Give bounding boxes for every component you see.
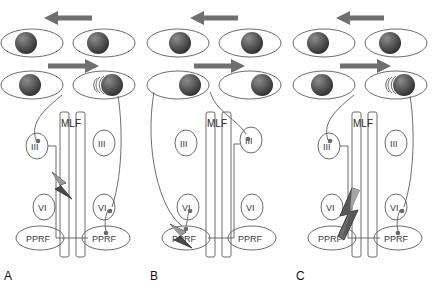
eye-bottom-right-nystagmus xyxy=(365,71,427,99)
eye-bottom-left xyxy=(147,71,209,99)
abducens-nucleus-right: VI xyxy=(385,194,407,220)
oculomotor-label-left: III xyxy=(180,139,188,149)
panel-b-graphic: MLF III III VI VI PPRF xyxy=(146,0,291,285)
mlf-tract-left xyxy=(352,112,361,257)
panel-label-b: B xyxy=(150,269,158,283)
oculomotor-label-right: III xyxy=(390,139,398,149)
abducens-label-left: VI xyxy=(326,203,335,213)
mlf-tract-right xyxy=(76,112,85,257)
panel-a-graphic: MLF III III VI VI PPRF xyxy=(0,0,145,285)
eye-bottom-left xyxy=(1,71,63,99)
panel-label-c: C xyxy=(296,269,305,283)
gaze-arrow-left-top xyxy=(190,11,238,25)
synapse-left-pprf xyxy=(184,227,189,232)
synapse-right-vi xyxy=(400,209,405,214)
abducens-nucleus-left: VI xyxy=(33,194,55,220)
synapse-right-pprf xyxy=(104,231,109,236)
synapse-right-iii xyxy=(246,137,251,142)
mlf-label: MLF xyxy=(353,118,373,129)
synapse-right-pprf xyxy=(396,231,401,236)
abducens-label-right: VI xyxy=(246,203,255,213)
eye-top-right xyxy=(73,29,135,57)
pathway-vi-to-right-eye xyxy=(404,96,413,207)
pathway-pprf-to-vi xyxy=(397,210,400,231)
oculomotor-label-left: III xyxy=(323,142,331,152)
panel-a: MLF III III VI VI PPRF xyxy=(0,0,145,285)
abducens-label-right: VI xyxy=(390,203,399,213)
eye-top-left xyxy=(147,29,209,57)
synapse-left-iii xyxy=(36,139,41,144)
panel-b: MLF III III VI VI PPRF xyxy=(146,0,291,285)
oculomotor-label-left: III xyxy=(31,142,39,152)
gaze-arrow-right-mid xyxy=(48,59,99,73)
eye-top-right xyxy=(219,29,281,57)
gaze-arrow-right-mid xyxy=(194,59,245,73)
synapse-left-vi xyxy=(188,209,193,214)
abducens-label-right: VI xyxy=(98,203,107,213)
pathway-pprf-to-vi-left xyxy=(186,211,189,226)
mlf-tract-right xyxy=(222,112,231,257)
mlf-label: MLF xyxy=(207,118,227,129)
figure-container: MLF III III VI VI PPRF xyxy=(0,0,437,285)
pathway-mlf-decussation xyxy=(48,146,88,238)
synapse-left-iii xyxy=(328,139,333,144)
gaze-arrow-left-top xyxy=(336,11,384,25)
gaze-arrow-right-mid xyxy=(340,59,391,73)
oculomotor-nucleus-left: III xyxy=(26,133,48,159)
pathway-mlf-decussation xyxy=(208,144,240,238)
eye-bottom-right-nystagmus xyxy=(73,71,135,99)
pprf-label-left: PPRF xyxy=(26,234,51,244)
lesion-lightning-bolt-large xyxy=(338,188,360,240)
abducens-label-left: VI xyxy=(38,203,47,213)
oculomotor-nucleus-left: III xyxy=(175,130,197,156)
oculomotor-nucleus-right: III xyxy=(93,130,115,156)
pprf-right: PPRF xyxy=(228,226,276,250)
panel-label-a: A xyxy=(4,269,12,283)
pathway-vi-to-right-eye xyxy=(112,96,121,207)
pprf-label-right: PPRF xyxy=(92,234,117,244)
synapse-right-vi xyxy=(108,209,113,214)
eye-top-left xyxy=(293,29,355,57)
oculomotor-label-right: III xyxy=(98,139,106,149)
panel-c: MLF III III VI VI PPRF xyxy=(292,0,437,285)
pprf-label-right: PPRF xyxy=(384,234,409,244)
pprf-label-right: PPRF xyxy=(238,234,263,244)
eye-bottom-right xyxy=(219,71,281,99)
eye-top-right xyxy=(365,29,427,57)
mlf-label: MLF xyxy=(61,118,81,129)
mlf-tract-right xyxy=(368,112,377,257)
oculomotor-nucleus-left: III xyxy=(318,133,340,159)
pathway-pprf-to-vi xyxy=(105,210,108,231)
eye-top-left xyxy=(1,29,63,57)
abducens-nucleus-right: VI xyxy=(241,194,263,220)
mlf-tract-left xyxy=(206,112,215,257)
eye-bottom-left xyxy=(293,71,355,99)
oculomotor-nucleus-right: III xyxy=(385,130,407,156)
gaze-arrow-left-top xyxy=(44,11,92,25)
abducens-nucleus-right: VI xyxy=(93,194,115,220)
panel-c-graphic: MLF III III VI VI PPRF xyxy=(292,0,437,285)
